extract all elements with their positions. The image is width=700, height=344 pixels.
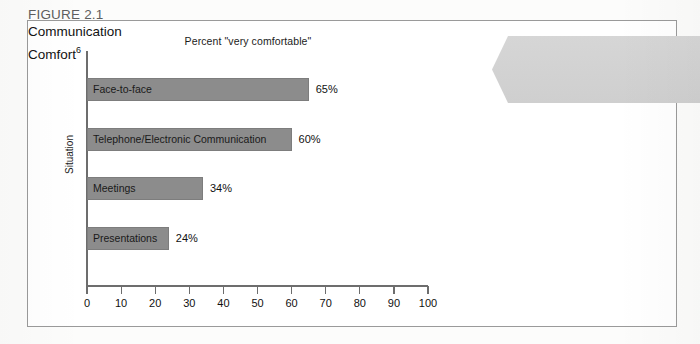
figure-number: FIGURE 2.1 bbox=[28, 6, 122, 23]
x-tick-label: 20 bbox=[140, 297, 170, 309]
x-tick-mark bbox=[325, 286, 326, 294]
figure-title-superscript: 6 bbox=[76, 45, 81, 55]
x-tick-mark bbox=[189, 286, 190, 294]
x-tick-label: 50 bbox=[243, 297, 273, 309]
bar-category-label: Presentations bbox=[93, 227, 157, 250]
figure-callout-text: FIGURE 2.1 Communication Comfort6 bbox=[28, 6, 122, 64]
x-tick-label: 90 bbox=[379, 297, 409, 309]
bar-row[interactable]: Telephone/Electronic Communication60% bbox=[87, 128, 508, 151]
bar-category-label: Telephone/Electronic Communication bbox=[93, 128, 266, 151]
x-tick-mark bbox=[427, 286, 428, 294]
x-tick-label: 0 bbox=[72, 297, 102, 309]
x-tick-label: 70 bbox=[311, 297, 341, 309]
page-background: Percent "very comfortable" Situation 010… bbox=[0, 0, 700, 344]
x-tick-mark bbox=[223, 286, 224, 294]
x-tick-label: 80 bbox=[345, 297, 375, 309]
figure-title-text: Comfort bbox=[28, 47, 76, 62]
bar-value-label: 60% bbox=[299, 128, 321, 151]
bar-category-label: Meetings bbox=[93, 177, 136, 200]
bar-row[interactable]: Face-to-face65% bbox=[87, 78, 508, 101]
figure-title-line1: Communication bbox=[28, 23, 122, 41]
bar-row[interactable]: Meetings34% bbox=[87, 177, 508, 200]
x-tick-label: 30 bbox=[174, 297, 204, 309]
x-tick-mark bbox=[393, 286, 394, 294]
x-tick-label: 100 bbox=[413, 297, 443, 309]
x-tick-mark bbox=[291, 286, 292, 294]
x-tick-label: 10 bbox=[106, 297, 136, 309]
x-tick-label: 40 bbox=[208, 297, 238, 309]
x-tick-label: 60 bbox=[277, 297, 307, 309]
bar-value-label: 24% bbox=[176, 227, 198, 250]
x-tick-mark bbox=[121, 286, 122, 294]
bar-value-label: 65% bbox=[316, 78, 338, 101]
figure-callout-banner bbox=[492, 36, 700, 103]
x-tick-mark bbox=[257, 286, 258, 294]
x-tick-mark bbox=[359, 286, 360, 294]
x-tick-mark bbox=[86, 286, 87, 294]
figure-title-line2: Comfort6 bbox=[28, 41, 122, 64]
bar-category-label: Face-to-face bbox=[93, 78, 152, 101]
x-tick-mark bbox=[155, 286, 156, 294]
bar-row[interactable]: Presentations24% bbox=[87, 227, 508, 250]
bar-value-label: 34% bbox=[210, 177, 232, 200]
y-axis-label: Situation bbox=[64, 110, 75, 200]
chart-title: Percent "very comfortable" bbox=[88, 35, 408, 47]
